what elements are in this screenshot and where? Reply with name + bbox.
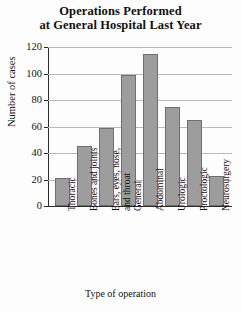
y-axis-tick-label: 60 [32,121,43,132]
x-axis-title: Type of operation [0,288,241,299]
y-axis-tick-label: 0 [37,201,42,212]
y-axis-title: Number of cases [6,113,18,127]
x-axis-tick-label: Ears, eyes, nose,and throat [111,139,132,211]
x-axis-tick-label-line: Thoracic [67,177,78,211]
x-axis-tick-label: General [133,181,144,211]
x-axis-tick-labels: ThoracicBones and jointsEars, eyes, nose… [48,209,232,281]
y-axis-tick [44,206,48,207]
x-axis-tick-label-line: Ears, eyes, nose, [111,139,122,211]
x-axis-tick-label: Thoracic [67,177,78,211]
x-axis-tick-label-line: and throat [122,139,133,211]
x-axis-tick-label-line: Urologic [177,177,188,211]
x-axis-tick-label-line: Neurosurgery [221,159,232,211]
y-axis-tick-label: 40 [32,148,43,159]
y-axis-tick-label: 20 [32,174,43,185]
x-axis-tick-label-line: General [133,181,144,211]
x-axis-tick-label-line: Bones and joints [89,148,100,211]
x-axis-tick-label: Abdominal [155,168,166,211]
chart-title-line-1: Operations Performed [0,4,241,18]
y-axis-tick-label: 100 [26,68,42,79]
y-axis-tick-label: 80 [32,95,43,106]
x-axis-tick-label-line: Abdominal [155,168,166,211]
chart-title: Operations Performed at General Hospital… [0,4,241,32]
y-axis-tick-label: 120 [26,42,42,53]
x-axis-tick-label: Urologic [177,177,188,211]
x-axis-tick-label: Neurosurgery [221,159,232,211]
x-axis-tick-label-line: Proctologic [199,167,210,211]
bar-chart: Operations Performed at General Hospital… [0,0,241,312]
x-axis-tick-label: Proctologic [199,167,210,211]
chart-title-line-2: at General Hospital Last Year [0,18,241,32]
x-axis-tick-label: Bones and joints [89,148,100,211]
